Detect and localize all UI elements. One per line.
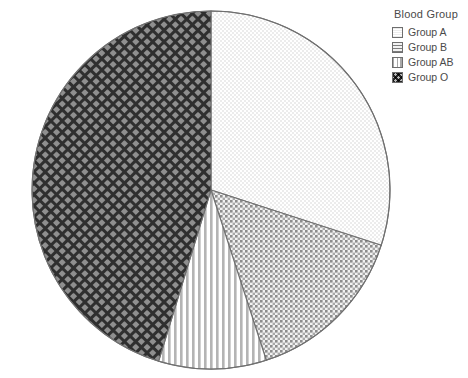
pie-chart: Blood Group Group A Group B Group AB Gro… xyxy=(0,0,468,378)
legend-swatch-group-ab xyxy=(392,57,403,68)
legend-item-group-a[interactable]: Group A xyxy=(392,25,468,39)
legend-label-group-a: Group A xyxy=(408,27,447,38)
legend-swatch-group-b xyxy=(392,42,403,53)
legend-item-group-b[interactable]: Group B xyxy=(392,40,468,54)
legend-label-group-b: Group B xyxy=(408,42,447,53)
legend-title: Blood Group xyxy=(394,8,468,20)
legend: Blood Group Group A Group B Group AB Gro… xyxy=(392,8,468,85)
legend-label-group-o: Group O xyxy=(408,72,448,83)
legend-label-group-ab: Group AB xyxy=(408,57,454,68)
legend-swatch-group-o xyxy=(392,72,403,83)
legend-item-group-ab[interactable]: Group AB xyxy=(392,55,468,69)
legend-swatch-group-a xyxy=(392,27,403,38)
legend-item-group-o[interactable]: Group O xyxy=(392,70,468,84)
